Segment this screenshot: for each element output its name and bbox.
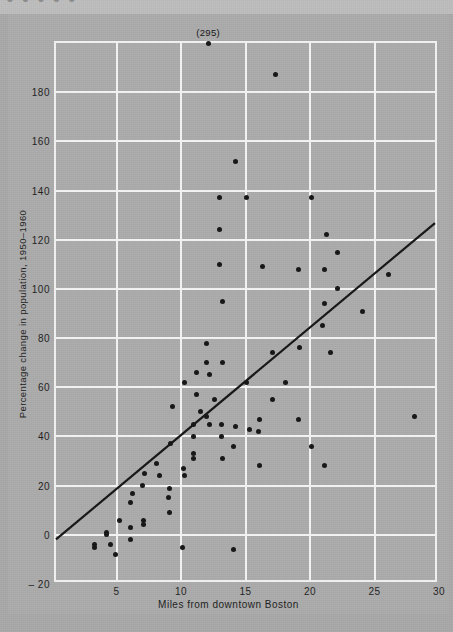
- data-point: [335, 250, 340, 255]
- x-axis-title: Miles from downtown Boston: [8, 599, 449, 610]
- data-point: [92, 545, 97, 550]
- data-point: [220, 360, 225, 365]
- data-point: [180, 545, 185, 550]
- data-point: [140, 483, 145, 488]
- clipped-header-text: ● ● ● ● ●: [6, 0, 78, 6]
- y-tick-label: 80: [38, 333, 50, 344]
- y-tick-label: 180: [32, 87, 50, 98]
- data-point: [283, 380, 288, 385]
- regression-line: [56, 43, 435, 578]
- y-axis-title: Percentage change in population, 1950–19…: [17, 210, 28, 419]
- data-point: [130, 491, 135, 496]
- data-point: [207, 422, 212, 427]
- data-point: [233, 424, 238, 429]
- data-point: [206, 41, 211, 46]
- x-tick-label: 10: [175, 586, 187, 597]
- data-point: [247, 427, 252, 432]
- data-point: [113, 552, 118, 557]
- y-tick-label: 120: [32, 234, 50, 245]
- data-point: [322, 301, 327, 306]
- x-tick-label: 15: [240, 586, 252, 597]
- y-tick-label: 60: [38, 382, 50, 393]
- data-point: [204, 341, 209, 346]
- data-point: [233, 159, 238, 164]
- data-point: [220, 299, 225, 304]
- x-tick-label: 25: [368, 586, 380, 597]
- data-point: [117, 518, 122, 523]
- y-tick-label: 100: [32, 283, 50, 294]
- x-tick-label: 5: [114, 586, 120, 597]
- plot-area: – 20020406080100120140160180 51015202530…: [54, 41, 437, 582]
- figure-panel: – 20020406080100120140160180 51015202530…: [8, 14, 449, 614]
- data-point: [219, 434, 224, 439]
- x-tick-label: 30: [433, 586, 445, 597]
- data-point: [296, 417, 301, 422]
- off-scale-value-label: (295): [196, 27, 220, 38]
- data-point: [256, 429, 261, 434]
- y-tick-label: – 20: [29, 579, 50, 590]
- data-point: [322, 267, 327, 272]
- data-point: [257, 417, 262, 422]
- data-point: [167, 486, 172, 491]
- data-point: [386, 272, 391, 277]
- data-point: [309, 444, 314, 449]
- y-tick-label: 20: [38, 480, 50, 491]
- data-point: [220, 456, 225, 461]
- x-tick-label: 20: [304, 586, 316, 597]
- data-point: [108, 542, 113, 547]
- y-tick-label: 140: [32, 185, 50, 196]
- y-tick-label: 0: [44, 529, 50, 540]
- data-point: [219, 422, 224, 427]
- y-tick-label: 160: [32, 136, 50, 147]
- y-tick-label: 40: [38, 431, 50, 442]
- data-point: [157, 473, 162, 478]
- clipped-page-header: ● ● ● ● ●: [0, 0, 453, 14]
- data-point: [296, 267, 301, 272]
